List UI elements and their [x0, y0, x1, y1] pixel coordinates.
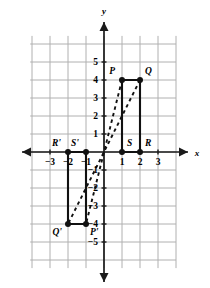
y-tick-label: 5	[93, 57, 98, 67]
vertex-label-P: P	[109, 66, 115, 76]
x-tick-label: 2	[138, 157, 143, 167]
coordinate-plane: −3−2−112354321−1−2−3−4−5 PQRSP'Q'R'S' x …	[0, 0, 210, 288]
x-tick-label: −2	[63, 157, 73, 167]
vertex-label-P-prime: P'	[90, 227, 99, 237]
vertex-dot-R	[137, 149, 143, 155]
vertex-label-R-prime: R'	[51, 138, 61, 148]
y-tick-label: 1	[93, 129, 98, 139]
figure-canvas: −3−2−112354321−1−2−3−4−5 PQRSP'Q'R'S' x …	[0, 0, 210, 288]
x-tick-label: −3	[45, 157, 55, 167]
x-tick-label: 1	[120, 157, 125, 167]
x-tick-label: 3	[156, 157, 161, 167]
y-tick-label: −1	[88, 165, 98, 175]
vertex-label-S: S	[127, 138, 132, 148]
vertex-label-S-prime: S'	[71, 138, 79, 148]
y-tick-label: −2	[88, 183, 98, 193]
y-tick-label: 2	[93, 111, 98, 121]
y-tick-label: 4	[93, 75, 98, 85]
y-tick-label: 3	[93, 93, 98, 103]
vertex-label-Q: Q	[145, 66, 152, 76]
vertex-dot-Q-prime	[65, 221, 71, 227]
vertex-dot-R-prime	[65, 149, 71, 155]
y-tick-label: −5	[88, 237, 98, 247]
y-tick-label: −3	[88, 201, 98, 211]
vertex-dot-P	[119, 77, 125, 83]
vertex-label-R: R	[144, 138, 151, 148]
vertex-dot-S-prime	[83, 149, 89, 155]
vertex-label-Q-prime: Q'	[53, 227, 63, 237]
x-axis-label: x	[194, 148, 200, 158]
vertex-dot-S	[119, 149, 125, 155]
vertex-dot-Q	[137, 77, 143, 83]
